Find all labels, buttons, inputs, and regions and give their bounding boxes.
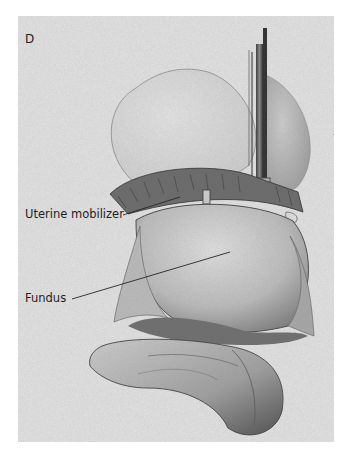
label-uterine-mobilizer: Uterine mobilizer (25, 209, 124, 221)
panel-letter: D (25, 33, 34, 45)
illustration-panel: D Uterine mobilizer Fundus (18, 16, 334, 442)
surgical-illustration (18, 16, 334, 442)
label-fundus: Fundus (25, 293, 66, 305)
